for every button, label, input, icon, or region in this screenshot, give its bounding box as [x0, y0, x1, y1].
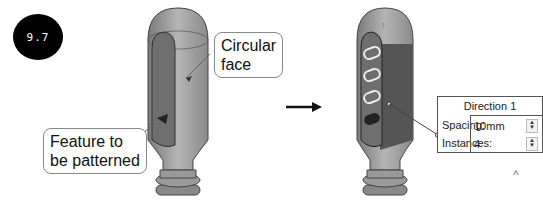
collapse-caret-icon[interactable]: ^	[513, 168, 519, 182]
callout-circular-face: Circular face	[214, 32, 283, 78]
callout-text: Feature to	[50, 132, 140, 151]
svg-text:↕: ↕	[381, 20, 386, 30]
callout-text: face	[221, 55, 276, 74]
right-handle-model: ↕	[357, 8, 413, 195]
panel-title: Direction 1	[438, 97, 542, 115]
callout-text: be patterned	[50, 151, 140, 170]
values-column: 10mm ▲▼ 4 ▲▼	[470, 115, 542, 153]
direction-1-panel: Direction 1 Spacing: Instances: 10mm ▲▼ …	[437, 96, 543, 153]
spacing-spinner-icon[interactable]: ▲▼	[526, 119, 538, 133]
callout-feature-to-be-patterned: Feature to be patterned	[43, 128, 147, 174]
callout-text: Circular	[221, 36, 276, 55]
spacing-input[interactable]: 10mm	[474, 120, 505, 132]
left-handle-model	[148, 8, 208, 195]
instances-input[interactable]: 4	[474, 138, 480, 150]
instances-spinner-icon[interactable]: ▲▼	[526, 137, 538, 151]
